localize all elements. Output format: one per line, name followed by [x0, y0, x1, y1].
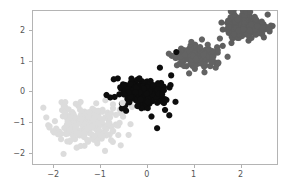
y-tick-mark: [29, 91, 32, 92]
scatter-points-layer: [32, 10, 278, 165]
y-tick-mark: [29, 61, 32, 62]
plot-axes: −2−1012 −2−1012: [32, 10, 278, 165]
y-tick-mark: [29, 30, 32, 31]
y-tick-label: 1: [20, 56, 25, 65]
x-tick-mark: [100, 165, 101, 168]
scatter-plot-figure: −2−1012 −2−1012: [0, 0, 293, 193]
x-tick-mark: [53, 165, 54, 168]
y-tick-label: 2: [20, 25, 25, 34]
y-tick-label: −2: [13, 148, 25, 157]
x-tick-label: −2: [47, 170, 59, 179]
x-tick-label: 1: [191, 170, 196, 179]
x-tick-mark: [194, 165, 195, 168]
y-tick-mark: [29, 122, 32, 123]
y-tick-label: 0: [20, 87, 25, 96]
x-tick-mark: [241, 165, 242, 168]
x-tick-mark: [147, 165, 148, 168]
y-tick-label: −1: [13, 118, 25, 127]
x-tick-label: 2: [238, 170, 243, 179]
y-tick-mark: [29, 153, 32, 154]
x-tick-label: 0: [144, 170, 149, 179]
x-tick-label: −1: [94, 170, 106, 179]
